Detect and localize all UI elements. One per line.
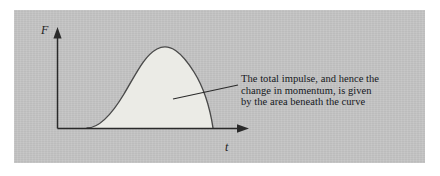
annotation-line-1: The total impulse, and hence the [241,73,417,85]
figure-screenshot: F t The total impulse, and hence the cha… [0,0,440,176]
x-axis-arrowhead-icon [237,124,249,133]
y-axis-label: F [41,24,48,36]
annotation-line-2: change in momentum, is given [241,85,417,97]
y-axis-arrowhead-icon [53,27,61,39]
annotation-line-3: by the area beneath the curve [241,96,417,108]
figure-panel: F t The total impulse, and hence the cha… [14,10,425,163]
x-axis-label: t [225,141,228,153]
annotation-caption: The total impulse, and hence the change … [241,73,417,108]
impulse-area-fill [87,47,213,128]
